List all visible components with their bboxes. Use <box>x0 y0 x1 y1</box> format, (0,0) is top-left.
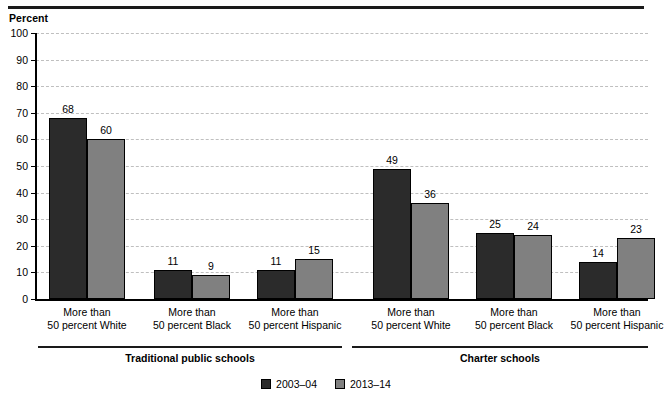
group-label-1: Charter schools <box>352 352 648 364</box>
bar-value-label-cat0-series1: 60 <box>87 125 125 136</box>
y-tick-mark-50 <box>31 166 36 167</box>
group-rule-0 <box>38 346 342 348</box>
y-axis-title: Percent <box>9 12 48 24</box>
category-label-line: More than <box>235 306 355 319</box>
y-tick-label-70: 70 <box>2 108 28 118</box>
y-tick-label-100: 100 <box>2 28 28 38</box>
bar-value-label-cat1-series1: 9 <box>192 261 230 272</box>
y-tick-label-30: 30 <box>2 214 28 224</box>
category-label-line: 50 percent White <box>27 319 147 332</box>
y-tick-mark-40 <box>31 193 36 194</box>
bar-cat2-series0 <box>257 270 295 299</box>
y-tick-mark-80 <box>31 86 36 87</box>
category-label-3: More than50 percent White <box>351 306 471 331</box>
category-label-line: More than <box>454 306 574 319</box>
y-tick-label-80: 80 <box>2 81 28 91</box>
y-tick-mark-100 <box>31 33 36 34</box>
plot-area: 68601191115493625241423 <box>36 33 648 299</box>
top-divider-rule <box>8 6 644 9</box>
bar-cat4-series0 <box>476 233 514 300</box>
bars-layer: 68601191115493625241423 <box>36 33 648 299</box>
legend-item-0[interactable]: 2003–04 <box>261 378 317 390</box>
y-tick-mark-90 <box>31 60 36 61</box>
legend-label-1: 2013–14 <box>350 378 391 390</box>
bar-cat1-series0 <box>154 270 192 299</box>
category-label-line: 50 percent Black <box>454 319 574 332</box>
y-tick-mark-60 <box>31 139 36 140</box>
y-tick-label-40: 40 <box>2 188 28 198</box>
bar-value-label-cat4-series1: 24 <box>514 221 552 232</box>
y-tick-label-50: 50 <box>2 161 28 171</box>
bar-value-label-cat2-series0: 11 <box>257 256 295 267</box>
y-tick-label-20: 20 <box>2 241 28 251</box>
group-label-0: Traditional public schools <box>38 352 342 364</box>
bar-value-label-cat5-series1: 23 <box>617 224 655 235</box>
category-label-line: More than <box>132 306 252 319</box>
bar-cat0-series0 <box>49 118 87 299</box>
category-label-line: 50 percent Hispanic <box>557 319 668 332</box>
category-label-0: More than50 percent White <box>27 306 147 331</box>
category-label-line: 50 percent Hispanic <box>235 319 355 332</box>
bar-value-label-cat3-series1: 36 <box>411 189 449 200</box>
category-label-line: 50 percent White <box>351 319 471 332</box>
bar-value-label-cat0-series0: 68 <box>49 104 87 115</box>
bar-cat4-series1 <box>514 235 552 299</box>
legend-swatch-icon-0 <box>261 379 271 389</box>
bar-value-label-cat5-series0: 14 <box>579 248 617 259</box>
legend-label-0: 2003–04 <box>276 378 317 390</box>
bar-cat1-series1 <box>192 275 230 299</box>
category-label-4: More than50 percent Black <box>454 306 574 331</box>
category-label-line: More than <box>351 306 471 319</box>
bar-cat0-series1 <box>87 139 125 299</box>
y-tick-label-90: 90 <box>2 55 28 65</box>
bar-value-label-cat2-series1: 15 <box>295 245 333 256</box>
bar-value-label-cat3-series0: 49 <box>373 155 411 166</box>
bar-value-label-cat4-series0: 25 <box>476 219 514 230</box>
y-tick-mark-10 <box>31 272 36 273</box>
bar-cat3-series0 <box>373 169 411 299</box>
chart-legend: 2003–042013–14 <box>0 378 652 390</box>
x-axis-line <box>35 299 648 301</box>
category-label-line: More than <box>557 306 668 319</box>
y-tick-mark-0 <box>31 299 36 300</box>
category-label-line: 50 percent Black <box>132 319 252 332</box>
group-rule-1 <box>352 346 648 348</box>
category-label-2: More than50 percent Hispanic <box>235 306 355 331</box>
y-tick-label-60: 60 <box>2 134 28 144</box>
bar-cat5-series0 <box>579 262 617 299</box>
legend-item-1[interactable]: 2013–14 <box>335 378 391 390</box>
bar-cat2-series1 <box>295 259 333 299</box>
y-tick-mark-70 <box>31 113 36 114</box>
bar-cat5-series1 <box>617 238 655 299</box>
y-tick-label-0: 0 <box>2 294 28 304</box>
bar-value-label-cat1-series0: 11 <box>154 256 192 267</box>
bar-cat3-series1 <box>411 203 449 299</box>
y-tick-mark-20 <box>31 246 36 247</box>
y-tick-mark-30 <box>31 219 36 220</box>
category-label-line: More than <box>27 306 147 319</box>
category-label-5: More than50 percent Hispanic <box>557 306 668 331</box>
category-label-1: More than50 percent Black <box>132 306 252 331</box>
y-tick-label-10: 10 <box>2 267 28 277</box>
legend-swatch-icon-1 <box>335 379 345 389</box>
